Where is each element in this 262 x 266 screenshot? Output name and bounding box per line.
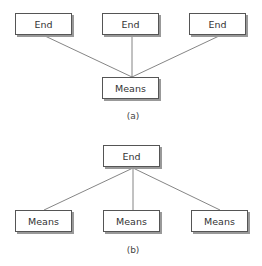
a-end-box-3: End <box>189 13 246 35</box>
b-means-box-2: Means <box>103 210 160 232</box>
diagram-root: End End End Means (a) End Means Means Me… <box>0 0 262 266</box>
caption-b: (b) <box>127 245 140 255</box>
b-means-box-3: Means <box>191 210 248 232</box>
b-end-box: End <box>103 145 160 167</box>
caption-a: (a) <box>127 111 140 121</box>
a-means-box: Means <box>102 77 159 99</box>
a-end-box-1: End <box>15 13 72 35</box>
b-means-box-1: Means <box>15 210 72 232</box>
a-end-box-2: End <box>102 13 159 35</box>
